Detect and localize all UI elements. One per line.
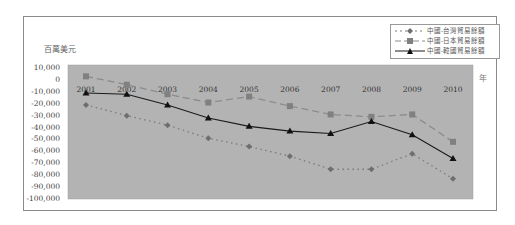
- x-tick-label: 2005: [240, 85, 259, 94]
- data-point-marker: [246, 94, 252, 100]
- legend-label: 中國-韓國貿易餘額: [427, 46, 485, 56]
- data-point-marker: [409, 111, 415, 117]
- x-tick-label: 2006: [280, 85, 299, 94]
- x-tick-label: 2008: [362, 85, 381, 94]
- legend-label: 中國-台灣貿易餘額: [427, 26, 485, 36]
- x-tick-label: 2010: [443, 85, 462, 94]
- data-point-marker: [328, 111, 334, 117]
- solid-triangle-line-icon: [393, 46, 427, 56]
- x-tick-label: 2007: [321, 85, 340, 94]
- data-point-marker: [287, 103, 293, 109]
- legend-label: 中國-日本貿易餘額: [427, 36, 485, 46]
- x-tick-label: 2009: [403, 85, 422, 94]
- data-point-marker: [124, 82, 130, 88]
- data-point-marker: [205, 100, 211, 106]
- legend-item-taiwan: 中國-台灣貿易餘額: [393, 26, 497, 36]
- legend-item-korea: 中國-韓國貿易餘額: [393, 46, 497, 56]
- data-point-marker: [83, 73, 89, 79]
- data-point-marker: [450, 139, 456, 145]
- x-tick-label: 2004: [199, 85, 218, 94]
- legend: 中國-台灣貿易餘額 中國-日本貿易餘額 中國-韓國貿易餘額: [390, 24, 500, 59]
- dotted-diamond-line-icon: [393, 26, 427, 36]
- legend-item-japan: 中國-日本貿易餘額: [393, 36, 497, 46]
- data-point-marker: [165, 91, 171, 97]
- dashed-square-line-icon: [393, 36, 427, 46]
